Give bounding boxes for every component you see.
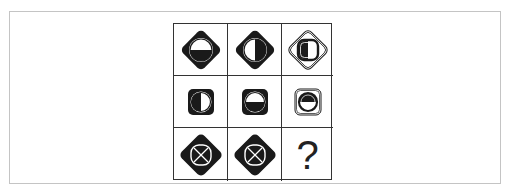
cell-r3-c2 bbox=[228, 128, 282, 181]
cell-r1-c3 bbox=[282, 24, 333, 76]
square-circle-bottom-half-icon bbox=[231, 78, 279, 126]
cell-r2-c3 bbox=[282, 76, 333, 128]
cell-r2-c1 bbox=[174, 76, 228, 128]
outline-square-circle-top-half-icon bbox=[284, 78, 332, 126]
square-circle-left-half-icon bbox=[177, 78, 225, 126]
cell-r2-c2 bbox=[228, 76, 282, 128]
diamond-x-cross-icon bbox=[177, 131, 225, 179]
diamond-circle-right-half-icon bbox=[231, 26, 279, 74]
cell-r3-c1 bbox=[174, 128, 228, 181]
diamond-circle-bottom-half-icon bbox=[177, 26, 225, 74]
cell-r3-c3-missing: ? bbox=[282, 128, 333, 181]
cell-r1-c1 bbox=[174, 24, 228, 76]
question-mark: ? bbox=[296, 135, 318, 175]
puzzle-grid: ? bbox=[173, 23, 332, 180]
diamond-x-cross-icon bbox=[231, 131, 279, 179]
cell-r1-c2 bbox=[228, 24, 282, 76]
outline-diamond-square-left-half-icon bbox=[284, 26, 332, 74]
